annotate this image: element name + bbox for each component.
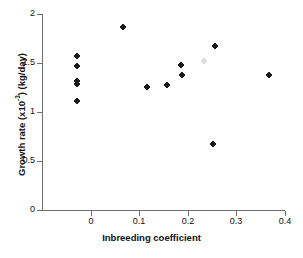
data-point — [75, 54, 79, 58]
x-tick-label: 0.3 — [221, 217, 251, 226]
y-tick-label-wrap: 1 — [0, 107, 35, 117]
data-point — [213, 44, 217, 48]
data-point — [179, 63, 183, 67]
y-axis-title-exponent: -3 — [14, 95, 21, 101]
x-axis-line — [42, 210, 285, 211]
data-point — [202, 59, 206, 63]
y-tick-label-wrap: 1.5 — [0, 58, 35, 68]
data-point — [75, 82, 79, 86]
y-tick-mark — [37, 14, 42, 15]
data-point — [145, 85, 149, 89]
data-point — [75, 64, 79, 68]
y-tick-label: 0.5 — [1, 156, 35, 165]
x-tick-label: 0.2 — [173, 217, 203, 226]
y-tick-label: 0 — [1, 205, 35, 214]
y-tick-mark — [37, 161, 42, 162]
y-tick-label-wrap: 0.5 — [0, 156, 35, 166]
scatter-chart-figure: Growth rate (x10-3) (kg/day) 00.511.52 0… — [0, 0, 303, 258]
x-tick-label: 0.4 — [270, 217, 300, 226]
page-caption — [0, 248, 303, 258]
y-axis-line — [42, 14, 43, 211]
data-point — [121, 25, 125, 29]
data-point — [165, 83, 169, 87]
y-tick-label: 1 — [1, 107, 35, 116]
y-tick-mark — [37, 210, 42, 211]
y-tick-label-wrap: 0 — [0, 205, 35, 215]
x-tick-label: 0 — [76, 217, 106, 226]
data-point — [211, 142, 215, 146]
data-point — [75, 99, 79, 103]
x-tick-label: 0.1 — [124, 217, 154, 226]
x-axis-title: Inbreeding coefficient — [0, 232, 303, 243]
data-point — [180, 73, 184, 77]
y-tick-label: 2 — [1, 9, 35, 18]
y-tick-label-wrap: 2 — [0, 9, 35, 19]
y-tick-mark — [37, 112, 42, 113]
data-point — [267, 73, 271, 77]
y-tick-label: 1.5 — [1, 58, 35, 67]
y-tick-mark — [37, 63, 42, 64]
